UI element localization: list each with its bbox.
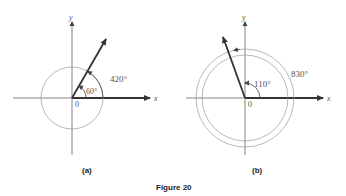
origin-label: 0 xyxy=(248,100,252,109)
figure-canvas: y x 0 60° 420° (a) y x 0 110° 830° (b) F… xyxy=(0,0,346,196)
panel-b: y x 0 110° 830° (b) xyxy=(186,13,331,175)
total-angle-label: 420° xyxy=(110,74,128,84)
origin-label: 0 xyxy=(75,100,79,109)
panel-caption: (b) xyxy=(252,166,263,175)
reference-angle-label: 110° xyxy=(254,79,271,89)
total-angle-label: 830° xyxy=(291,69,309,79)
x-axis-label: x xyxy=(326,94,331,103)
terminal-side-ray xyxy=(223,37,245,98)
panel-a: y x 0 60° 420° (a) xyxy=(13,13,158,175)
reference-angle-label: 60° xyxy=(86,87,97,96)
total-angle-arc-end xyxy=(234,49,240,50)
panel-caption: (a) xyxy=(82,166,92,175)
figure-title: Figure 20 xyxy=(156,183,192,192)
y-axis-label: y xyxy=(68,13,73,22)
reference-angle-arc xyxy=(79,86,86,98)
y-axis-label: y xyxy=(241,13,246,22)
x-axis-label: x xyxy=(153,94,158,103)
